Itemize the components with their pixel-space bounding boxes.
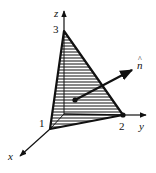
y-axis-label: y xyxy=(138,120,144,132)
x-axis xyxy=(20,129,50,156)
z-intercept-label: 3 xyxy=(53,23,59,35)
x-axis-label: x xyxy=(7,150,13,162)
normal-vector-label: n xyxy=(137,59,143,71)
x-intercept-label: 1 xyxy=(39,117,45,129)
hidden-y-axis xyxy=(64,114,123,115)
plane-diagram: z 3 1 2 y x ^ n xyxy=(0,0,156,173)
z-axis-label: z xyxy=(53,7,59,19)
y-intercept-label: 2 xyxy=(119,120,125,132)
y-intercept-point xyxy=(120,112,125,117)
